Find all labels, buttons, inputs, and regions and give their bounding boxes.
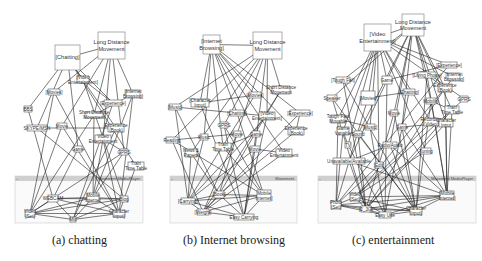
caption-internet-browsing: (b) Internet browsing bbox=[183, 233, 285, 248]
node-music: [Music] bbox=[363, 124, 378, 130]
caption-chatting: (a) chatting bbox=[52, 233, 107, 248]
node-label: TV bbox=[345, 143, 352, 148]
node-label: Entertainment] bbox=[359, 38, 396, 44]
node-label: (Book) bbox=[438, 88, 452, 93]
node-internet-browsing: [InternetBrowsing] bbox=[444, 72, 464, 82]
node-label: Game bbox=[381, 78, 394, 83]
node-label: [Set] bbox=[331, 205, 340, 210]
node-mobile-internet: [MobileInternet] bbox=[439, 191, 456, 201]
node-label: Mobility bbox=[423, 99, 439, 104]
panel-entertainment: –Movement MediaPlayer[VideoEntertainment… bbox=[0, 0, 482, 225]
node-movies: [Movies] bbox=[359, 91, 376, 105]
node-game-variable: GameVariable bbox=[335, 126, 352, 136]
node-game: Game bbox=[396, 124, 409, 130]
node-gprs: GPRS bbox=[457, 96, 470, 102]
node-label: Tuning bbox=[419, 149, 433, 154]
node-label: Movement bbox=[400, 25, 427, 31]
node-tuning: Tuning bbox=[419, 148, 433, 154]
node-label: Internet] bbox=[439, 196, 456, 201]
graph-entertainment: –Movement MediaPlayer[VideoEntertainment… bbox=[0, 0, 482, 225]
node-game: Game bbox=[381, 76, 394, 84]
window-title: Movement MediaPlayer bbox=[431, 176, 474, 181]
node-label: Radio/Audio bbox=[377, 143, 402, 148]
node-label: Input] bbox=[410, 211, 422, 216]
caption-entertainment: (c) entertainment bbox=[352, 233, 434, 248]
node-label: Sound bbox=[351, 132, 365, 137]
node-label: Time Table bbox=[441, 110, 464, 115]
node-video-set: Video[Set] bbox=[349, 192, 361, 202]
node-mobility: Mobility bbox=[423, 98, 439, 104]
node-label: Browsing] bbox=[444, 77, 464, 82]
node-label: [Movies] bbox=[359, 96, 376, 101]
node-long-distance-movement: Long DistanceMovement bbox=[395, 14, 431, 36]
node-label: Input bbox=[441, 123, 452, 128]
node-character-input: CharacterInput bbox=[436, 118, 457, 128]
node-label: [Living Phone] bbox=[412, 73, 441, 78]
node-speaker: Speaker bbox=[323, 95, 341, 101]
node-label: [Edit] bbox=[374, 163, 384, 168]
node-tough-fall: [Tough Fall] bbox=[331, 77, 355, 83]
node-label: Speaker bbox=[323, 96, 341, 101]
node-label: Unavailable/Available bbox=[327, 159, 371, 164]
node-chatting: [Chatting] bbox=[399, 89, 419, 95]
node-label: GPRS bbox=[457, 97, 470, 102]
node-experience: [Experience] bbox=[436, 62, 462, 68]
node-label: [Chatting] bbox=[399, 90, 419, 95]
node-radio-audio: Radio/Audio bbox=[377, 142, 402, 148]
node-label: [Video bbox=[370, 31, 386, 37]
node-label: [Music] bbox=[363, 125, 378, 130]
node-2-3g: [2_3G] bbox=[359, 206, 373, 212]
node-movie: Movie bbox=[388, 110, 401, 116]
node-edit: [Edit] bbox=[374, 162, 384, 168]
node-label: Variable bbox=[335, 131, 352, 136]
node-label: Movable bbox=[329, 119, 347, 124]
node-tv: TV bbox=[345, 142, 352, 148]
node-label: [2_3G] bbox=[359, 207, 373, 212]
node-tough-fast-movable: Tough FastMovable bbox=[327, 114, 350, 124]
node-label: [Tough Fall] bbox=[331, 78, 355, 83]
node-easy-use: Easy Use bbox=[375, 212, 395, 218]
node-living-phone: [Living Phone] bbox=[412, 72, 441, 78]
node-label: [Experience] bbox=[436, 63, 462, 68]
node-sound: Sound bbox=[351, 131, 365, 137]
node-label: Movie bbox=[388, 111, 401, 116]
node-label: [Set] bbox=[350, 197, 359, 202]
node-unavailable-available: Unavailable/Available bbox=[327, 158, 371, 164]
node-label: Game bbox=[396, 125, 409, 130]
node-video-entertainment: [VideoEntertainment] bbox=[359, 24, 396, 51]
node-label: Long Distance bbox=[395, 19, 431, 25]
node-photo-set: Photo[Set] bbox=[330, 200, 342, 210]
node-label: Easy Use bbox=[375, 213, 395, 218]
